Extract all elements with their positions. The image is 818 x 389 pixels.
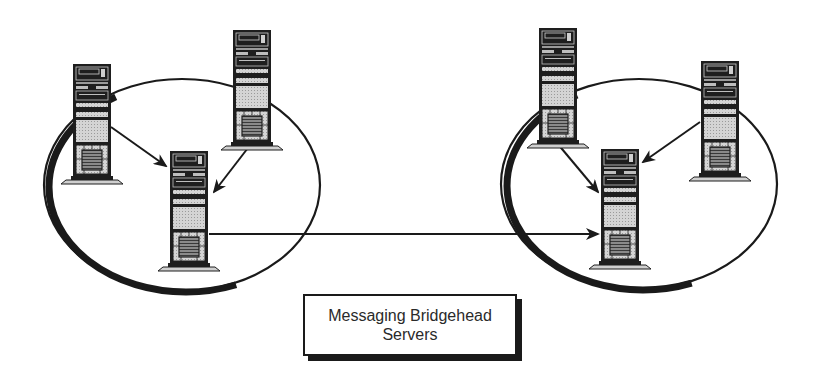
arrow-right-a-to-bridgehead [557,143,598,192]
server-icon [158,151,220,271]
server-right-a [527,28,589,148]
server-icon [527,28,589,148]
server-icon [221,30,283,150]
server-icon [589,149,651,269]
label-line-2: Servers [382,325,437,344]
server-right-b [689,61,751,181]
arrow-right-b-to-bridgehead [643,122,700,162]
arrow-left-b-to-bridgehead [214,144,251,192]
bridgehead-right [589,149,651,269]
bridgehead-label-box: Messaging Bridgehead Servers [303,294,517,356]
server-left-b [221,30,283,150]
bridgehead-left [158,151,220,271]
label-line-1: Messaging Bridgehead [328,306,492,325]
arrow-left-a-to-bridgehead [111,127,166,166]
server-icon [689,61,751,181]
